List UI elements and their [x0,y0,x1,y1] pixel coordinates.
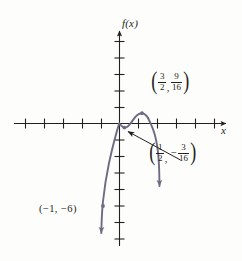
fraction-x-local-min: 1 2 [156,143,164,163]
graph-canvas [0,0,242,261]
marked-point-local-max [140,111,144,115]
function-curve [101,111,159,233]
y-axis-label: f(x) [122,18,138,29]
fraction-numerator: 1 [157,143,164,152]
annotation-local-min: ( 1 2 , − 3 16 ) [148,143,197,163]
fraction-denominator: 16 [171,83,182,92]
fraction-denominator: 16 [178,154,189,163]
fraction-numerator: 3 [180,143,187,152]
annotation-local-max: ( 3 2 , 9 16 ) [150,72,190,92]
marked-point-left [101,204,105,208]
fraction-y-local-max: 9 16 [171,72,182,92]
annotation-left-point: (−1, −6) [39,204,77,215]
fraction-numerator: 9 [173,72,180,81]
function-graph-figure: f(x) x ( 3 2 , 9 16 ) ( 1 2 , − 3 16 [0,0,242,261]
fraction-y-local-min: 3 16 [178,143,189,163]
x-axis-label: x [221,125,226,136]
curve-center-wiggle [119,113,148,127]
fraction-denominator: 2 [159,83,166,92]
fraction-x-local-max: 3 2 [158,72,166,92]
label-comma: , [164,154,169,165]
fraction-denominator: 2 [157,154,164,163]
marked-point-local-min [123,126,127,130]
fraction-numerator: 3 [159,72,166,81]
minus-sign: − [169,148,178,159]
